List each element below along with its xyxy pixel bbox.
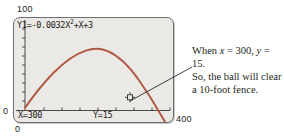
y-axis-zero-label: 0 bbox=[3, 106, 8, 116]
equation-suffix: +X+3 bbox=[74, 20, 93, 30]
calculator-screen: Y1=-0.0032X2+X+3 X=300 Y=15 bbox=[13, 17, 174, 123]
calculator-screen-inner: Y1=-0.0032X2+X+3 X=300 Y=15 bbox=[14, 18, 173, 122]
equation-prefix: Y1=-0.0032X bbox=[17, 20, 70, 30]
plot-canvas bbox=[14, 18, 173, 122]
annotation-line-3: a 10-foot fence. bbox=[192, 83, 284, 96]
annotation-text: When x = 300, y = 15. So, the ball will … bbox=[192, 44, 284, 96]
annotation-line1-b: = 300, bbox=[224, 45, 256, 56]
annotation-line-1: When x = 300, y = 15. bbox=[192, 44, 284, 70]
trace-cursor-icon bbox=[125, 92, 135, 102]
annotation-line-2: So, the ball will clear bbox=[192, 70, 284, 83]
y-value-readout: Y=15 bbox=[93, 110, 112, 120]
figure-root: 100 0 0 400 bbox=[0, 0, 284, 139]
x-axis-zero-label: 0 bbox=[15, 124, 20, 134]
equation-readout: Y1=-0.0032X2+X+3 bbox=[17, 20, 93, 30]
y-axis-max-label: 100 bbox=[17, 4, 33, 14]
x-value-readout: X=300 bbox=[18, 110, 42, 120]
x-axis-max-label: 400 bbox=[176, 114, 192, 124]
annotation-line1-a: When bbox=[192, 45, 220, 56]
